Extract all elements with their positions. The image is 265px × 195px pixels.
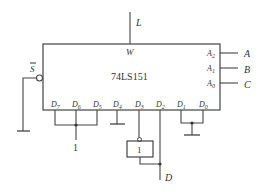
enable-pin-label: S <box>30 64 35 74</box>
junction-dot-icon <box>190 121 193 124</box>
d2-input-wire: D <box>160 110 173 183</box>
d4-ground <box>110 110 125 124</box>
output-signal-label: L <box>135 17 142 28</box>
pin-d4-label: D4 <box>112 100 122 110</box>
chip-name: 74LS151 <box>111 71 148 82</box>
pin-d1-label: D1 <box>176 100 186 110</box>
signal-b-label: B <box>244 64 250 75</box>
output-pin-label: W <box>126 47 135 57</box>
junction-dot-icon <box>74 123 77 126</box>
pin-a1-label: A1 <box>206 64 215 74</box>
inverter-group: 1 <box>127 110 162 166</box>
inverter-label: 1 <box>137 145 142 155</box>
inversion-bubble-icon <box>37 75 43 81</box>
low-tie-group <box>181 110 203 135</box>
pin-d7-label: D7 <box>50 100 61 110</box>
high-tie-group: 1 <box>55 110 97 153</box>
signal-c-label: C <box>244 79 251 90</box>
pin-d3-label: D3 <box>134 100 144 110</box>
output-wire: L <box>130 12 142 44</box>
mux-circuit-diagram: L W 74LS151 A2 A A1 B A0 C S D7 D6 D5 D4… <box>0 0 265 195</box>
pin-a0-label: A0 <box>206 79 215 89</box>
select-inputs: A2 A A1 B A0 C <box>206 48 251 90</box>
pin-d2-label: D2 <box>155 100 165 110</box>
pin-a2-label: A2 <box>206 49 215 59</box>
pin-d5-label: D5 <box>92 100 102 110</box>
signal-a-label: A <box>243 48 251 59</box>
pin-d0-label: D0 <box>198 100 208 110</box>
input-signal-label: D <box>164 172 173 183</box>
logic-high-label: 1 <box>73 142 78 153</box>
enable-input: S <box>17 63 43 131</box>
data-pin-labels: D7 D6 D5 D4 D3 D2 D1 D0 <box>50 100 208 110</box>
pin-d6-label: D6 <box>71 100 81 110</box>
